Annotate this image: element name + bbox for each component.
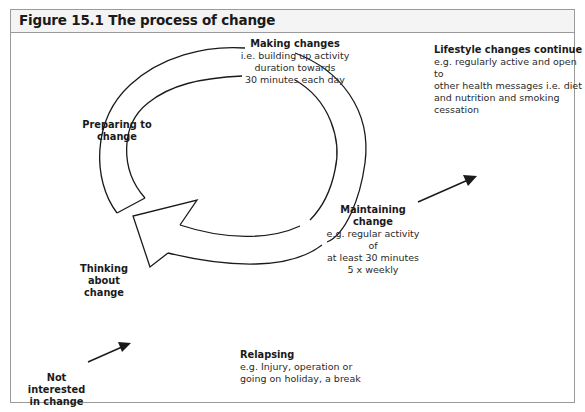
cycle-bottom-outer-arc bbox=[168, 245, 322, 264]
exit-arrow bbox=[418, 175, 477, 202]
stage-desc-line: 5 x weekly bbox=[323, 264, 423, 276]
stage-heading-line: Thinking about bbox=[64, 263, 144, 287]
cycle-bottom-inner-arc bbox=[180, 225, 300, 236]
stage-heading-line: Preparing to bbox=[82, 119, 152, 131]
cycle-top-inner-arc bbox=[295, 80, 337, 220]
stage-heading: Lifestyle changes continue bbox=[434, 44, 584, 56]
stage-desc-line: e.g. Injury, operation or bbox=[240, 361, 370, 373]
stage-heading-line: Not interested bbox=[19, 372, 94, 396]
stage-heading-line: change bbox=[82, 131, 152, 143]
stage-maintaining: Maintaining change e.g. regular activity… bbox=[323, 204, 423, 276]
stage-heading: Making changes bbox=[230, 38, 360, 50]
stage-desc-line: i.e. building up activity bbox=[230, 50, 360, 62]
stage-desc-line: and nutrition and smoking bbox=[434, 92, 584, 104]
entry-arrow bbox=[88, 342, 131, 362]
stage-desc-line: going on holiday, a break bbox=[240, 373, 370, 385]
stage-preparing: Preparing to change bbox=[82, 119, 152, 143]
stage-desc-line: e.g. regular activity of bbox=[323, 228, 423, 252]
stage-desc-line: cessation bbox=[434, 104, 584, 116]
stage-heading: Relapsing bbox=[240, 349, 370, 361]
stage-desc-line: e.g. regularly active and open to bbox=[434, 56, 584, 80]
stage-lifestyle-changes: Lifestyle changes continue e.g. regularl… bbox=[434, 44, 584, 116]
stage-relapsing: Relapsing e.g. Injury, operation or goin… bbox=[240, 349, 370, 385]
stage-heading-line: change bbox=[64, 287, 144, 299]
cycle-tail-cap bbox=[117, 198, 145, 213]
stage-heading-line: in change bbox=[19, 396, 94, 408]
stage-desc-line: 30 minutes each day bbox=[230, 74, 360, 86]
stage-thinking: Thinking about change bbox=[64, 263, 144, 299]
stage-desc-line: at least 30 minutes bbox=[323, 252, 423, 264]
stage-heading: Maintaining change bbox=[323, 204, 423, 228]
stage-desc-line: other health messages i.e. diet bbox=[434, 80, 584, 92]
stage-making-changes: Making changes i.e. building up activity… bbox=[230, 38, 360, 86]
stage-desc-line: duration towards bbox=[230, 62, 360, 74]
stage-not-interested: Not interested in change bbox=[19, 372, 94, 408]
